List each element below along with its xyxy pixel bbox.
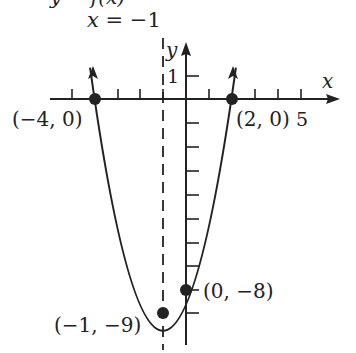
y-axis-arrow-icon: [181, 42, 191, 56]
symmetry-label: x = −1: [87, 8, 161, 32]
label-vertex: (−1, −9): [54, 313, 141, 337]
label-neg4-0: (−4, 0): [12, 107, 83, 131]
parabola-graph: y = f(x) x = −1 x 5 y 1: [0, 0, 356, 353]
x-axis-arrow-icon: [326, 94, 340, 104]
x-axis-label: x: [322, 69, 333, 93]
y-ticks: [186, 76, 199, 313]
point-0-neg8: [180, 284, 192, 296]
label-0-neg8: (0, −8): [203, 279, 274, 303]
x-tick-label-5: 5: [296, 108, 308, 130]
vertex-point: [157, 307, 169, 319]
point-2-0: [226, 93, 238, 105]
point-neg4-0: [89, 93, 101, 105]
label-2-0: (2, 0): [236, 107, 290, 131]
y-tick-label-1: 1: [167, 65, 179, 87]
y-axis-label: y: [165, 38, 178, 62]
